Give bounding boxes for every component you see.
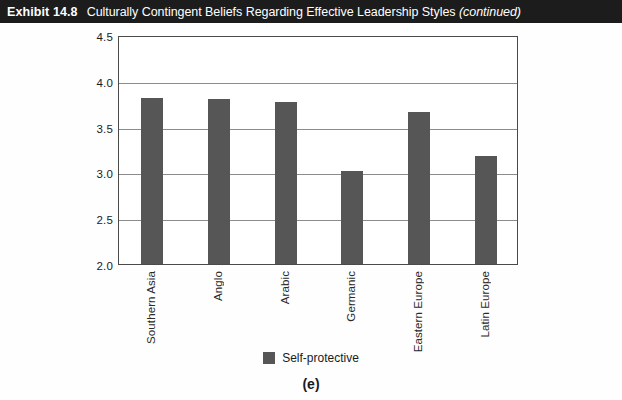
bar-germanic bbox=[341, 171, 363, 264]
chart-figure: 2.02.53.03.54.04.5Southern AsiaAngloArab… bbox=[0, 23, 622, 400]
y-axis-tick-label: 2.5 bbox=[96, 214, 113, 226]
panel-caption: (e) bbox=[0, 376, 622, 392]
exhibit-number: Exhibit 14.8 bbox=[0, 5, 78, 19]
x-axis-label-anglo: Anglo bbox=[212, 271, 224, 301]
y-axis-tick-label: 3.5 bbox=[96, 123, 113, 135]
y-gridline bbox=[119, 83, 517, 84]
legend-label-self-protective: Self-protective bbox=[282, 351, 359, 365]
x-axis-label-southern-asia: Southern Asia bbox=[145, 271, 157, 344]
bar-eastern-europe bbox=[408, 112, 430, 264]
y-gridline bbox=[119, 220, 517, 221]
exhibit-title: Culturally Contingent Beliefs Regarding … bbox=[78, 5, 521, 19]
x-axis-label-arabic: Arabic bbox=[279, 271, 291, 304]
y-axis-tick-label: 2.0 bbox=[96, 260, 113, 272]
exhibit-title-text: Culturally Contingent Beliefs Regarding … bbox=[87, 5, 456, 19]
bar-arabic bbox=[275, 102, 297, 264]
exhibit-header: Exhibit 14.8 Culturally Contingent Belie… bbox=[0, 0, 622, 23]
chart-legend: Self-protective bbox=[0, 351, 622, 365]
x-axis-label-latin-europe: Latin Europe bbox=[479, 271, 491, 337]
y-axis-tick-label: 4.0 bbox=[96, 77, 113, 89]
y-gridline bbox=[119, 129, 517, 130]
exhibit-continued-note: (continued) bbox=[459, 5, 521, 19]
y-axis-tick-label: 4.5 bbox=[96, 31, 113, 43]
bar-latin-europe bbox=[475, 156, 497, 264]
y-gridline bbox=[119, 174, 517, 175]
y-axis-tick-label: 3.0 bbox=[96, 168, 113, 180]
bar-southern-asia bbox=[141, 98, 163, 264]
plot-area: 2.02.53.03.54.04.5Southern AsiaAngloArab… bbox=[118, 36, 518, 265]
bar-anglo bbox=[208, 99, 230, 264]
x-axis-label-eastern-europe: Eastern Europe bbox=[412, 271, 424, 352]
legend-swatch-self-protective bbox=[263, 352, 275, 364]
x-axis-label-germanic: Germanic bbox=[345, 271, 357, 322]
